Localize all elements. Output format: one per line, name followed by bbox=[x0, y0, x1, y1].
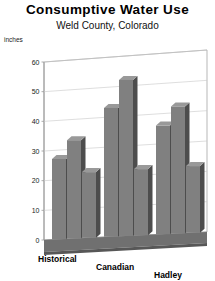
y-tick-label: 40 bbox=[32, 118, 40, 125]
y-axis-ticks: 0102030405060 bbox=[32, 59, 40, 244]
y-tick-label: 30 bbox=[32, 148, 40, 155]
x-axis-category-labels: HistoricalCanadianHadley bbox=[38, 254, 182, 280]
y-tick-label: 10 bbox=[32, 207, 40, 214]
bar bbox=[186, 162, 205, 233]
x-category-label: Historical bbox=[38, 254, 77, 264]
x-category-label: Hadley bbox=[154, 270, 182, 280]
chart-container: Consumptive Water Use Weld County, Color… bbox=[0, 0, 215, 281]
y-tick-label: 60 bbox=[32, 59, 40, 66]
y-tick-label: 0 bbox=[36, 237, 40, 244]
y-tick-label: 50 bbox=[32, 88, 40, 95]
y-tick-label: 20 bbox=[32, 177, 40, 184]
x-category-label: Canadian bbox=[96, 262, 134, 272]
plot-area: 0102030405060 HistoricalCanadianHadley bbox=[0, 0, 215, 281]
bar bbox=[82, 168, 101, 238]
bar bbox=[134, 165, 153, 235]
